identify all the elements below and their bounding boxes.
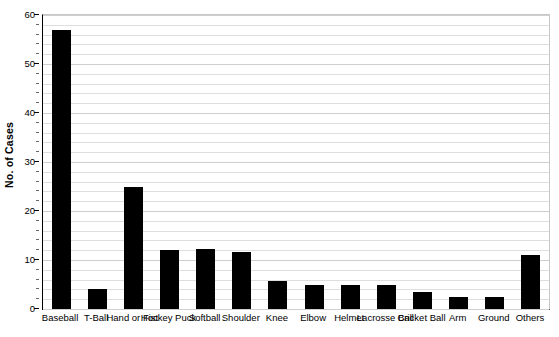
bar bbox=[160, 250, 179, 309]
plot-area bbox=[42, 14, 550, 310]
y-tick-label: 30 bbox=[24, 156, 35, 167]
bars-layer bbox=[43, 15, 549, 309]
bar-chart: No. of Cases 0102030405060 BaseballT-Bal… bbox=[0, 0, 559, 337]
y-tick-minor bbox=[36, 132, 39, 133]
bar bbox=[232, 252, 251, 309]
y-tick-minor bbox=[36, 92, 39, 93]
bar bbox=[88, 289, 107, 309]
x-tick-label: Others bbox=[501, 312, 559, 323]
bar bbox=[377, 285, 396, 310]
bar bbox=[196, 249, 215, 309]
y-tick-label: 20 bbox=[24, 205, 35, 216]
y-tick-minor bbox=[36, 181, 39, 182]
y-tick-minor bbox=[36, 34, 39, 35]
bar bbox=[341, 285, 360, 309]
y-tick-minor bbox=[36, 220, 39, 221]
y-axis-title: No. of Cases bbox=[0, 0, 18, 310]
y-tick-label: 40 bbox=[24, 107, 35, 118]
bar bbox=[449, 297, 468, 309]
y-tick-minor bbox=[36, 141, 39, 142]
bar bbox=[485, 297, 504, 309]
y-tick-label: 10 bbox=[24, 254, 35, 265]
y-tick-label: 50 bbox=[24, 58, 35, 69]
y-tick-minor bbox=[36, 151, 39, 152]
y-tick-minor bbox=[36, 269, 39, 270]
y-tick-minor bbox=[36, 298, 39, 299]
bar bbox=[52, 30, 71, 309]
y-tick-minor bbox=[36, 288, 39, 289]
y-axis-title-text: No. of Cases bbox=[3, 122, 15, 188]
y-tick-minor bbox=[36, 230, 39, 231]
y-tick-minor bbox=[36, 200, 39, 201]
bar bbox=[124, 187, 143, 310]
bar bbox=[413, 292, 432, 309]
y-tick-minor bbox=[36, 122, 39, 123]
x-axis-tick-labels: BaseballT-BallHand or FistHockey PuckSof… bbox=[42, 312, 548, 337]
y-tick-minor bbox=[36, 102, 39, 103]
y-tick-minor bbox=[36, 279, 39, 280]
y-tick-label: 60 bbox=[24, 9, 35, 20]
y-tick-minor bbox=[36, 239, 39, 240]
y-tick-minor bbox=[36, 24, 39, 25]
y-tick-minor bbox=[36, 73, 39, 74]
y-tick-minor bbox=[36, 43, 39, 44]
bar bbox=[268, 281, 287, 309]
y-tick-minor bbox=[36, 249, 39, 250]
gridline bbox=[43, 309, 549, 310]
y-tick-minor bbox=[36, 171, 39, 172]
y-tick-minor bbox=[36, 83, 39, 84]
y-tick-minor bbox=[36, 190, 39, 191]
y-tick-minor bbox=[36, 53, 39, 54]
bar bbox=[305, 285, 324, 309]
bar bbox=[521, 255, 540, 309]
y-axis-tick-labels: 0102030405060 bbox=[18, 14, 39, 308]
